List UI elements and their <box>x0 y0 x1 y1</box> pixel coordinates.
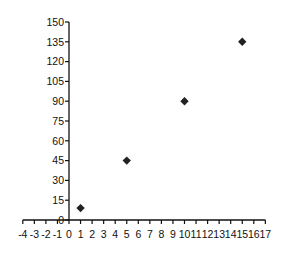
x-tick-label: 10 <box>179 228 191 240</box>
x-tick-label: 16 <box>248 228 260 240</box>
x-axis: -4-3-2-101234567891011121314151617 <box>18 220 271 240</box>
y-tick-label: 105 <box>46 75 64 87</box>
y-tick-label: 15 <box>52 194 64 206</box>
x-tick-label: 2 <box>89 228 95 240</box>
y-tick-label: 135 <box>46 36 64 48</box>
y-tick-label: 75 <box>52 115 64 127</box>
scatter-chart: 0153045607590105120135150 -4-3-2-1012345… <box>0 0 292 257</box>
y-tick-label: 45 <box>52 154 64 166</box>
x-tick-label: 14 <box>225 228 237 240</box>
x-tick-label: 17 <box>260 228 272 240</box>
y-tick-label: 120 <box>46 55 64 67</box>
x-tick-label: 0 <box>66 228 72 240</box>
data-point-diamond <box>180 97 188 105</box>
x-tick-label: 12 <box>202 228 214 240</box>
y-tick-label: 60 <box>52 135 64 147</box>
x-tick-label: 3 <box>101 228 107 240</box>
x-tick-label: 9 <box>170 228 176 240</box>
x-tick-label: -3 <box>30 228 39 240</box>
x-tick-label: 5 <box>124 228 130 240</box>
data-point-diamond <box>76 204 84 212</box>
x-tick-label: 1 <box>78 228 84 240</box>
data-point-diamond <box>123 156 131 164</box>
x-tick-label: -1 <box>53 228 62 240</box>
y-axis: 0153045607590105120135150 <box>46 16 69 226</box>
data-points <box>76 38 246 213</box>
x-tick-label: 4 <box>112 228 118 240</box>
x-tick-label: 7 <box>147 228 153 240</box>
x-tick-label: 11 <box>191 228 202 240</box>
x-tick-label: -2 <box>41 228 50 240</box>
y-tick-label: 30 <box>52 174 64 186</box>
y-tick-label: 150 <box>46 16 64 28</box>
x-tick-label: 13 <box>213 228 225 240</box>
data-point-diamond <box>238 38 246 46</box>
x-tick-label: -4 <box>18 228 27 240</box>
x-tick-label: 6 <box>135 228 141 240</box>
x-tick-label: 15 <box>236 228 248 240</box>
y-tick-label: 90 <box>52 95 64 107</box>
x-tick-label: 8 <box>158 228 164 240</box>
